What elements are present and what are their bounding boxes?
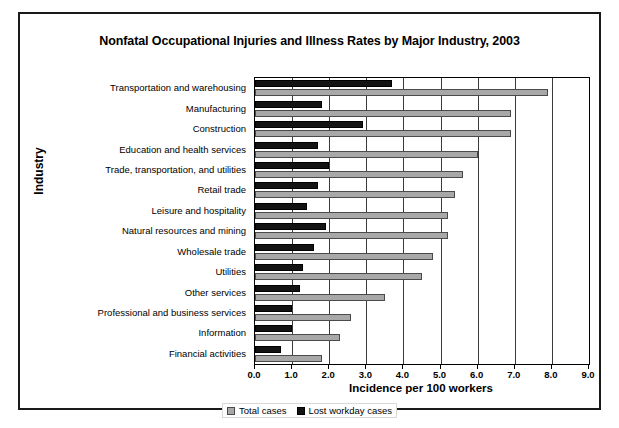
- chart-legend: Total cases Lost workday cases: [20, 403, 599, 418]
- x-tick-label: 6.0: [470, 369, 483, 380]
- bar-total-cases: [255, 334, 340, 341]
- gridline: [515, 78, 516, 364]
- legend-swatch-total-icon: [227, 407, 235, 415]
- bar-lost-workday-cases: [255, 223, 326, 230]
- x-tick-label: 7.0: [507, 369, 520, 380]
- x-tick-label: 4.0: [396, 369, 409, 380]
- legend-label-total: Total cases: [239, 405, 287, 416]
- category-label: Financial activities: [169, 347, 246, 358]
- category-label: Construction: [193, 123, 246, 134]
- category-label: Education and health services: [119, 143, 246, 154]
- bar-total-cases: [255, 191, 455, 198]
- bar-total-cases: [255, 151, 478, 158]
- bar-lost-workday-cases: [255, 325, 292, 332]
- category-label: Retail trade: [197, 184, 246, 195]
- bar-lost-workday-cases: [255, 121, 363, 128]
- x-tick-label: 0.0: [247, 369, 260, 380]
- bar-lost-workday-cases: [255, 162, 329, 169]
- chart-figure-frame: Nonfatal Occupational Injuries and Illne…: [18, 12, 601, 410]
- category-label: Leisure and hospitality: [151, 204, 246, 215]
- x-tick-label: 9.0: [581, 369, 594, 380]
- x-tick-label: 8.0: [544, 369, 557, 380]
- bar-lost-workday-cases: [255, 203, 307, 210]
- bar-lost-workday-cases: [255, 264, 303, 271]
- bar-total-cases: [255, 314, 351, 321]
- category-label: Natural resources and mining: [122, 225, 246, 236]
- x-axis-ticks: 0.01.02.03.04.05.06.07.08.09.0: [254, 364, 588, 378]
- bar-total-cases: [255, 130, 511, 137]
- bar-lost-workday-cases: [255, 142, 318, 149]
- category-label: Trade, transportation, and utilities: [105, 163, 246, 174]
- legend-item-lost-workday-cases: Lost workday cases: [297, 405, 392, 416]
- bar-lost-workday-cases: [255, 305, 292, 312]
- x-axis-title: Incidence per 100 workers: [254, 382, 588, 394]
- legend-swatch-lost-icon: [297, 407, 305, 415]
- gridline: [441, 78, 442, 364]
- bar-total-cases: [255, 232, 448, 239]
- bar-lost-workday-cases: [255, 346, 281, 353]
- x-tick-label: 1.0: [285, 369, 298, 380]
- chart-title: Nonfatal Occupational Injuries and Illne…: [20, 34, 599, 48]
- category-label: Utilities: [215, 266, 246, 277]
- category-label: Professional and business services: [98, 306, 246, 317]
- bar-lost-workday-cases: [255, 285, 300, 292]
- x-tick-label: 2.0: [322, 369, 335, 380]
- bar-total-cases: [255, 273, 422, 280]
- x-tick-label: 3.0: [359, 369, 372, 380]
- legend-box: Total cases Lost workday cases: [222, 403, 397, 418]
- category-label: Other services: [185, 286, 246, 297]
- category-axis-labels: Transportation and warehousingManufactur…: [80, 77, 250, 363]
- bar-lost-workday-cases: [255, 182, 318, 189]
- category-label: Transportation and warehousing: [110, 82, 246, 93]
- bar-lost-workday-cases: [255, 244, 314, 251]
- category-label: Manufacturing: [186, 102, 246, 113]
- x-tick-label: 5.0: [433, 369, 446, 380]
- gridline: [366, 78, 367, 364]
- bar-total-cases: [255, 89, 548, 96]
- gridline: [478, 78, 479, 364]
- legend-item-total-cases: Total cases: [227, 405, 287, 416]
- gridline: [552, 78, 553, 364]
- gridline: [403, 78, 404, 364]
- bar-total-cases: [255, 253, 433, 260]
- bar-total-cases: [255, 212, 448, 219]
- bar-lost-workday-cases: [255, 101, 322, 108]
- bar-total-cases: [255, 110, 511, 117]
- plot-area: [254, 77, 590, 365]
- bar-lost-workday-cases: [255, 80, 392, 87]
- legend-label-lost: Lost workday cases: [309, 405, 392, 416]
- bar-total-cases: [255, 294, 385, 301]
- category-label: Information: [198, 327, 246, 338]
- category-label: Wholesale trade: [177, 245, 246, 256]
- bar-total-cases: [255, 171, 463, 178]
- bar-total-cases: [255, 355, 322, 362]
- y-axis-title: Industry: [32, 106, 46, 236]
